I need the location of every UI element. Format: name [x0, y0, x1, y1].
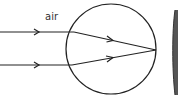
sphere — [66, 4, 156, 94]
air-label: air — [45, 11, 59, 22]
refracted-ray-1 — [74, 32, 156, 50]
diagram-canvas: air — [0, 0, 178, 105]
